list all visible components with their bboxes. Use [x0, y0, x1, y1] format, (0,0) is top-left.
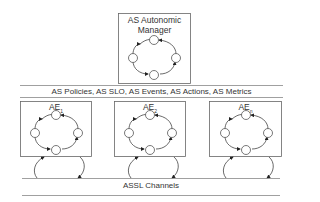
aen-sub: n [250, 108, 253, 114]
ae2-name: AE [143, 102, 154, 112]
channels-label: ASSL Channels [22, 181, 280, 190]
aen-name: AE [238, 102, 249, 112]
ae2-sub: 2 [154, 108, 157, 114]
manager-title-line1: AS Autonomic [118, 15, 191, 25]
tier-bar-label: AS Policies, AS SLO, AS Events, AS Actio… [20, 87, 283, 96]
ae1-name: AE [49, 102, 60, 112]
ae2-label: AE2 [114, 102, 186, 114]
aen-label: AEn [209, 102, 282, 114]
ae1-label: AE1 [20, 102, 92, 114]
manager-title-line2: Manager [118, 25, 191, 35]
ae1-sub: 1 [60, 108, 63, 114]
manager-title: AS Autonomic Manager [118, 15, 191, 35]
